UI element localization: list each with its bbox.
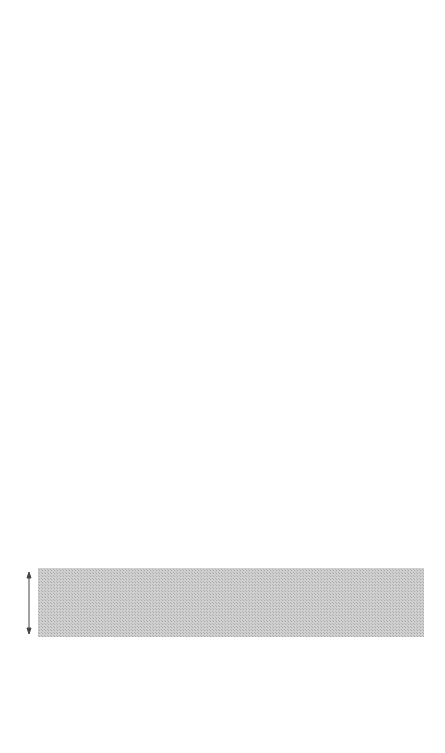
time-band-3-20ma: [38, 568, 424, 637]
phylogenetic-tree: [0, 0, 445, 753]
time-span-arrow-icon: [27, 572, 31, 634]
